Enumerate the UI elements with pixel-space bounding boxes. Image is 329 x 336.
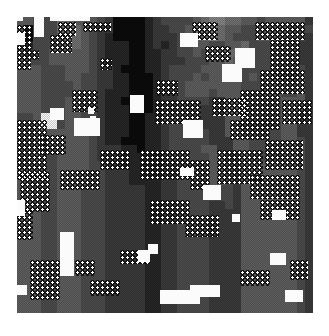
texture-cell (305, 233, 313, 241)
texture-cell (105, 41, 113, 49)
texture-cell (281, 65, 289, 73)
texture-cell (249, 257, 257, 265)
texture-cell (201, 113, 209, 121)
texture-cell (201, 89, 209, 97)
texture-cell (129, 25, 137, 33)
texture-cell (41, 289, 49, 297)
texture-cell (249, 289, 257, 297)
texture-cell (153, 73, 161, 81)
texture-cell (105, 217, 113, 225)
texture-cell (265, 105, 273, 113)
texture-cell (33, 41, 41, 49)
texture-cell (209, 201, 217, 209)
texture-cell (73, 113, 81, 121)
texture-cell (289, 41, 297, 49)
texture-cell (145, 289, 153, 297)
texture-cell (281, 233, 289, 241)
texture-cell (185, 41, 193, 49)
texture-cell (57, 249, 65, 257)
texture-cell (145, 153, 153, 161)
texture-cell (97, 105, 105, 113)
texture-cell (41, 153, 49, 161)
texture-cell (25, 89, 33, 97)
texture-cell (289, 65, 297, 73)
texture-cell (281, 297, 289, 305)
texture-cell (65, 89, 73, 97)
texture-cell (201, 25, 209, 33)
texture-cell (257, 49, 265, 57)
texture-cell (65, 305, 73, 313)
texture-cell (233, 265, 241, 273)
texture-cell (145, 145, 153, 153)
texture-cell (73, 41, 81, 49)
texture-cell (185, 57, 193, 65)
texture-cell (33, 225, 41, 233)
texture-cell (137, 217, 145, 225)
texture-cell (81, 129, 89, 137)
texture-cell (121, 225, 129, 233)
texture-cell (49, 41, 57, 49)
texture-cell (129, 265, 137, 273)
texture-cell (25, 81, 33, 89)
texture-cell (201, 233, 209, 241)
texture-cell (25, 161, 33, 169)
texture-cell (233, 153, 241, 161)
texture-cell (233, 281, 241, 289)
texture-cell (193, 209, 201, 217)
texture-cell (169, 297, 177, 305)
texture-cell (265, 177, 273, 185)
texture-cell (193, 73, 201, 81)
texture-cell (153, 17, 161, 25)
texture-cell (121, 289, 129, 297)
texture-cell (241, 297, 249, 305)
texture-cell (41, 33, 49, 41)
texture-cell (257, 113, 265, 121)
texture-cell (129, 201, 137, 209)
texture-cell (81, 209, 89, 217)
texture-cell (137, 17, 145, 25)
texture-cell (169, 161, 177, 169)
texture-cell (265, 225, 273, 233)
texture-cell (81, 81, 89, 89)
texture-cell (57, 217, 65, 225)
texture-cell (121, 121, 129, 129)
texture-cell (289, 169, 297, 177)
texture-cell (233, 73, 241, 81)
texture-cell (81, 177, 89, 185)
texture-cell (113, 193, 121, 201)
texture-cell (97, 265, 105, 273)
texture-cell (241, 41, 249, 49)
texture-cell (81, 289, 89, 297)
texture-cell (153, 33, 161, 41)
texture-cell (185, 161, 193, 169)
texture-cell (265, 17, 273, 25)
texture-cell (105, 57, 113, 65)
texture-cell (273, 217, 281, 225)
texture-cell (25, 281, 33, 289)
texture-cell (25, 49, 33, 57)
texture-cell (49, 305, 57, 313)
texture-cell (17, 145, 25, 153)
texture-cell (89, 241, 97, 249)
texture-cell (41, 241, 49, 249)
texture-cell (57, 169, 65, 177)
texture-cell (257, 185, 265, 193)
texture-cell (73, 273, 81, 281)
texture-cell (129, 257, 137, 265)
texture-cell (249, 233, 257, 241)
texture-cell (89, 273, 97, 281)
texture-cell (193, 105, 201, 113)
texture-cell (161, 129, 169, 137)
texture-cell (81, 169, 89, 177)
texture-cell (209, 273, 217, 281)
texture-cell (129, 209, 137, 217)
texture-cell (81, 17, 89, 25)
texture-cell (153, 177, 161, 185)
texture-cell (233, 241, 241, 249)
texture-cell (201, 225, 209, 233)
texture-cell (217, 185, 225, 193)
texture-cell (17, 137, 25, 145)
texture-cell (297, 193, 305, 201)
texture-cell (73, 25, 81, 33)
texture-cell (105, 49, 113, 57)
